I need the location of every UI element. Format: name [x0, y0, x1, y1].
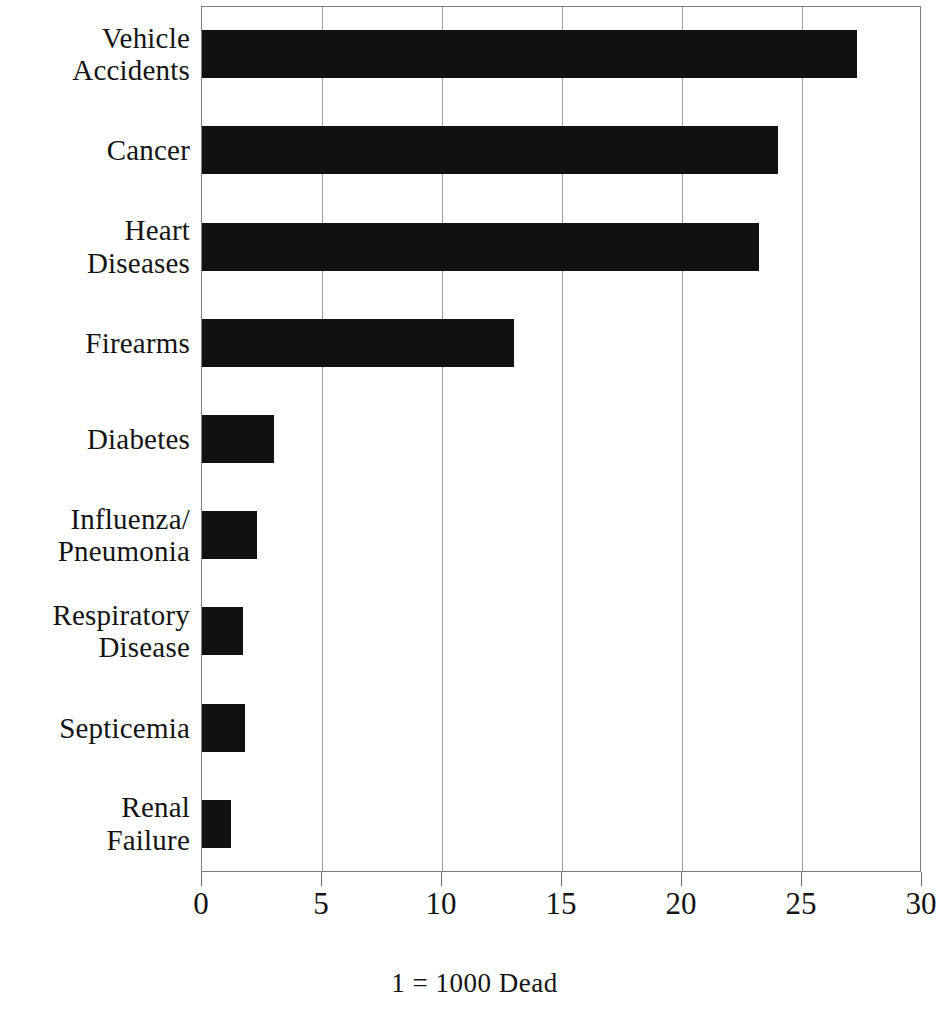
bar — [202, 511, 257, 559]
bars-layer — [201, 6, 921, 872]
bar-row — [201, 319, 921, 367]
bar — [202, 607, 243, 655]
category-label-line: Accidents — [0, 54, 190, 86]
category-label-line: Influenza/ — [0, 503, 190, 535]
x-tick-mark — [801, 872, 802, 886]
category-label: Septicemia — [0, 712, 190, 744]
bar-row — [201, 223, 921, 271]
category-label-line: Cancer — [0, 134, 190, 166]
category-label: RenalFailure — [0, 791, 190, 856]
bar-row — [201, 126, 921, 174]
category-label-line: Failure — [0, 824, 190, 856]
x-tick-label: 30 — [886, 888, 949, 919]
x-tick-label: 25 — [766, 888, 836, 919]
category-label: Diabetes — [0, 423, 190, 455]
bar-row — [201, 704, 921, 752]
category-label-line: Diseases — [0, 247, 190, 279]
x-tick-label: 15 — [526, 888, 596, 919]
category-label-line: Vehicle — [0, 22, 190, 54]
x-axis: 051015202530 — [201, 872, 921, 932]
x-tick-mark — [201, 872, 202, 886]
bar-row — [201, 511, 921, 559]
x-tick-label: 0 — [166, 888, 236, 919]
x-tick-mark — [321, 872, 322, 886]
x-tick-label: 10 — [406, 888, 476, 919]
bar — [202, 126, 778, 174]
bar-chart-figure: VehicleAccidentsCancerHeartDiseasesFirea… — [0, 0, 949, 1019]
bar — [202, 800, 231, 848]
category-label-line: Septicemia — [0, 712, 190, 744]
x-tick-mark — [681, 872, 682, 886]
category-label: Cancer — [0, 134, 190, 166]
x-tick-mark — [561, 872, 562, 886]
category-label: HeartDiseases — [0, 214, 190, 279]
chart-caption: 1 = 1000 Dead — [0, 968, 949, 999]
category-label: VehicleAccidents — [0, 22, 190, 87]
category-label-line: Heart — [0, 214, 190, 246]
x-tick-label: 20 — [646, 888, 716, 919]
bar — [202, 30, 857, 78]
bar-row — [201, 607, 921, 655]
bar — [202, 319, 514, 367]
bar — [202, 704, 245, 752]
bar-row — [201, 415, 921, 463]
category-axis-labels: VehicleAccidentsCancerHeartDiseasesFirea… — [0, 6, 190, 872]
x-tick-label: 5 — [286, 888, 356, 919]
category-label: Firearms — [0, 327, 190, 359]
bar — [202, 223, 759, 271]
bar-row — [201, 800, 921, 848]
category-label-line: Diabetes — [0, 423, 190, 455]
category-label: RespiratoryDisease — [0, 599, 190, 664]
category-label-line: Respiratory — [0, 599, 190, 631]
x-tick-mark — [441, 872, 442, 886]
bar-row — [201, 30, 921, 78]
category-label-line: Pneumonia — [0, 535, 190, 567]
category-label: Influenza/Pneumonia — [0, 503, 190, 568]
x-tick-mark — [921, 872, 922, 886]
category-label-line: Renal — [0, 791, 190, 823]
bar — [202, 415, 274, 463]
category-label-line: Disease — [0, 631, 190, 663]
category-label-line: Firearms — [0, 327, 190, 359]
